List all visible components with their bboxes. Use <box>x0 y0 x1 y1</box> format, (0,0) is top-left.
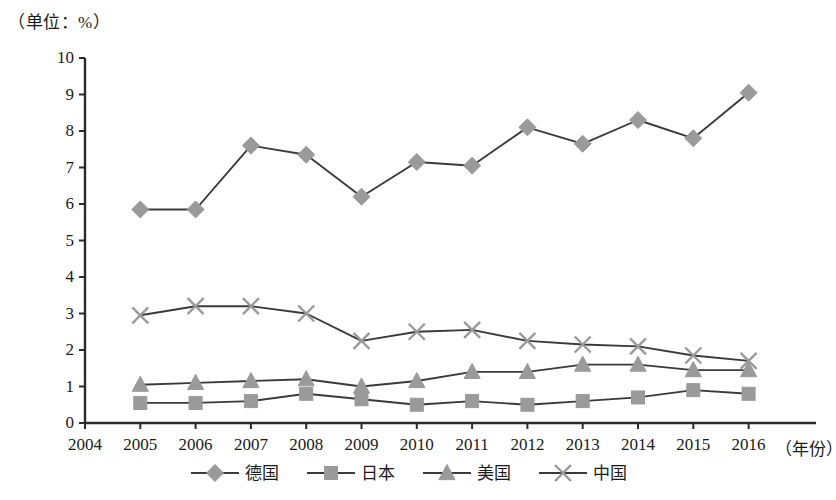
data-point-marker <box>574 135 591 152</box>
y-tick-label: 6 <box>30 194 74 214</box>
data-point-marker <box>521 398 534 411</box>
data-point-marker <box>298 146 315 163</box>
y-tick-label: 7 <box>30 158 74 178</box>
legend-item-0: 德国 <box>189 462 279 484</box>
y-tick-label: 0 <box>30 413 74 433</box>
y-tick-label: 4 <box>30 267 74 287</box>
x-tick-label: 2008 <box>289 435 323 455</box>
chart-legend: 德国日本美国中国 <box>0 462 816 484</box>
y-tick-label: 3 <box>30 304 74 324</box>
y-tick-label: 5 <box>30 231 74 251</box>
data-point-marker <box>687 384 700 397</box>
y-tick-label: 2 <box>30 340 74 360</box>
series-2 <box>132 356 756 393</box>
data-point-marker <box>466 395 479 408</box>
series-layer <box>132 84 757 411</box>
data-point-marker <box>408 154 425 171</box>
data-point-marker <box>298 371 314 386</box>
legend-marker-diamond-icon <box>189 462 241 484</box>
legend-marker-triangle-icon <box>421 462 473 484</box>
legend-label-2: 美国 <box>476 465 511 482</box>
data-point-marker <box>519 119 536 136</box>
axis-lines <box>79 58 816 429</box>
legend-item-1: 日本 <box>305 462 395 484</box>
x-tick-label: 2010 <box>400 435 434 455</box>
data-point-marker <box>576 395 589 408</box>
data-point-marker <box>353 188 370 205</box>
x-tick-label: 2014 <box>621 435 655 455</box>
x-tick-label: 2011 <box>455 435 488 455</box>
series-0 <box>132 84 757 218</box>
y-tick-label: 8 <box>30 121 74 141</box>
legend-item-3: 中国 <box>537 462 627 484</box>
legend-marker-square-icon <box>305 462 357 484</box>
data-point-marker <box>630 112 647 129</box>
x-tick-label: 2016 <box>732 435 766 455</box>
legend-item-2: 美国 <box>421 462 511 484</box>
unit-note-label: （单位：%） <box>8 8 110 33</box>
x-tick-label: 2009 <box>345 435 379 455</box>
x-tick-label: 2007 <box>234 435 268 455</box>
legend-label-0: 德国 <box>244 465 279 482</box>
legend-marker-cross-icon <box>537 462 589 484</box>
data-point-marker <box>464 157 481 174</box>
y-tick-label: 10 <box>30 48 74 68</box>
x-axis-title: （年份） <box>775 435 836 460</box>
legend-label-1: 日本 <box>360 465 395 482</box>
data-point-marker <box>355 393 368 406</box>
x-tick-label: 2006 <box>179 435 213 455</box>
data-point-marker <box>300 387 313 400</box>
x-tick-label: 2013 <box>566 435 600 455</box>
data-point-marker <box>134 396 147 409</box>
y-tick-label: 9 <box>30 85 74 105</box>
data-point-marker <box>742 387 755 400</box>
series-3 <box>132 298 756 369</box>
legend-label-3: 中国 <box>592 465 627 482</box>
data-point-marker <box>244 395 257 408</box>
data-point-marker <box>632 391 645 404</box>
x-tick-label: 2004 <box>68 435 102 455</box>
data-point-marker <box>410 398 423 411</box>
data-point-marker <box>741 362 757 377</box>
y-tick-label: 1 <box>30 377 74 397</box>
x-tick-label: 2005 <box>123 435 157 455</box>
series-1 <box>134 384 755 412</box>
data-point-marker <box>189 396 202 409</box>
x-tick-label: 2012 <box>510 435 544 455</box>
x-tick-label: 2015 <box>676 435 710 455</box>
data-point-marker <box>132 201 149 218</box>
